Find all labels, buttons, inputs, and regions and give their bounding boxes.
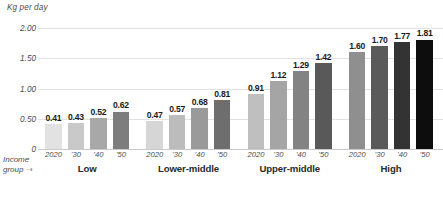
- y-tick-label: 1.00: [0, 84, 36, 93]
- x-tick-label: '40: [296, 150, 306, 159]
- y-tick-label: 0.50: [0, 114, 36, 123]
- group-label-lower-middle: Lower-middle: [158, 163, 219, 174]
- bar-value-label: 1.70: [372, 35, 388, 45]
- bar-value-label: 0.68: [192, 97, 208, 107]
- x-tick-label: 2020: [45, 150, 62, 159]
- bar-value-label: 0.52: [91, 107, 107, 117]
- bar[interactable]: [214, 100, 231, 149]
- bar[interactable]: [293, 71, 310, 149]
- x-tick-label: '50: [116, 150, 126, 159]
- y-tick-label: 2.00: [0, 24, 36, 33]
- x-tick-label: '40: [397, 150, 407, 159]
- y-tick-label: 1.50: [0, 54, 36, 63]
- x-tick-label: '50: [420, 150, 430, 159]
- group-label-upper-middle: Upper-middle: [259, 163, 320, 174]
- bar-value-label: 0.91: [248, 83, 264, 93]
- x-tick-label: '40: [195, 150, 205, 159]
- bar-value-label: 1.42: [316, 52, 332, 62]
- bar[interactable]: [270, 81, 287, 149]
- x-tick-label: 2020: [146, 150, 163, 159]
- bar[interactable]: [394, 42, 411, 149]
- bar-value-label: 0.62: [113, 100, 129, 110]
- x-tick-label: '40: [94, 150, 104, 159]
- bar[interactable]: [416, 40, 433, 150]
- bar-value-label: 1.77: [394, 31, 410, 41]
- x-tick-label: '30: [274, 150, 284, 159]
- x-tick-label: '30: [172, 150, 182, 159]
- x-tick-label: '30: [71, 150, 81, 159]
- bar[interactable]: [315, 63, 332, 149]
- bar[interactable]: [113, 112, 130, 150]
- y-tick-label: 0: [0, 145, 36, 154]
- bar-chart: Kg per day 00.501.001.502.00 0.4120200.4…: [0, 0, 443, 197]
- group-label-high: High: [381, 163, 402, 174]
- bar-value-label: 0.43: [68, 112, 84, 122]
- plot-area: 0.4120200.43'300.52'400.62'50Low0.472020…: [38, 0, 443, 197]
- x-tick-label: 2020: [248, 150, 265, 159]
- group-label-low: Low: [78, 163, 97, 174]
- bar[interactable]: [248, 94, 265, 149]
- income-group-label-line2: group: [3, 165, 23, 174]
- bar-value-label: 1.29: [293, 60, 309, 70]
- bar[interactable]: [68, 123, 85, 149]
- bar[interactable]: [191, 108, 208, 149]
- bar-value-label: 1.81: [417, 28, 433, 38]
- arrow-right-icon: ⇢: [26, 165, 32, 175]
- bar[interactable]: [146, 121, 163, 149]
- bar[interactable]: [169, 115, 186, 149]
- bar[interactable]: [45, 124, 62, 149]
- income-group-annotation: Income group ⇢: [3, 155, 32, 175]
- bar-value-label: 0.47: [147, 110, 163, 120]
- bar[interactable]: [349, 52, 366, 149]
- bar-value-label: 0.81: [214, 89, 230, 99]
- x-tick-label: '50: [319, 150, 329, 159]
- bar[interactable]: [90, 118, 107, 149]
- bar-value-label: 0.41: [46, 113, 62, 123]
- income-group-label-line1: Income: [3, 155, 32, 165]
- x-tick-label: '30: [375, 150, 385, 159]
- bar-value-label: 1.60: [349, 41, 365, 51]
- x-tick-label: 2020: [349, 150, 366, 159]
- bar-value-label: 0.57: [169, 104, 185, 114]
- x-tick-label: '50: [217, 150, 227, 159]
- bar-value-label: 1.12: [271, 70, 287, 80]
- bar[interactable]: [371, 46, 388, 149]
